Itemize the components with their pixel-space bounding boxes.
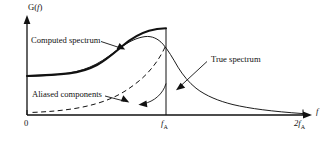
y-axis-arrowhead <box>24 15 31 24</box>
aliasing-spectrum-figure: G(f) f 0 fA 2fA Computed spectrum True s… <box>0 0 336 142</box>
x-tick-label-origin: 0 <box>24 119 28 128</box>
computed-spectrum-leader <box>101 42 125 50</box>
fa-subscript: A <box>163 124 167 130</box>
y-axis-label-close: ) <box>39 2 42 12</box>
x-axis-label: f <box>316 107 318 116</box>
x-axis-arrowhead <box>303 112 312 119</box>
x-ticks-group <box>27 110 303 116</box>
true-spectrum-leader <box>176 62 207 91</box>
y-axis-label: G(f) <box>28 3 42 12</box>
folding-arc-annotation <box>138 84 166 108</box>
x-tick-label-fa: fA <box>161 119 168 130</box>
computed-spectrum-label: Computed spectrum <box>31 36 100 45</box>
two-fa-base: 2f <box>294 118 301 128</box>
true-spectrum-label: True spectrum <box>211 55 261 64</box>
y-axis-label-base: G( <box>28 2 37 12</box>
axes-group <box>24 15 312 118</box>
aliased-components-label: Aliased components <box>32 90 102 99</box>
x-tick-label-2fa: 2fA <box>294 119 305 130</box>
chart-canvas <box>0 0 336 142</box>
aliased-components-leader <box>105 95 129 102</box>
two-fa-subscript: A <box>301 124 305 130</box>
